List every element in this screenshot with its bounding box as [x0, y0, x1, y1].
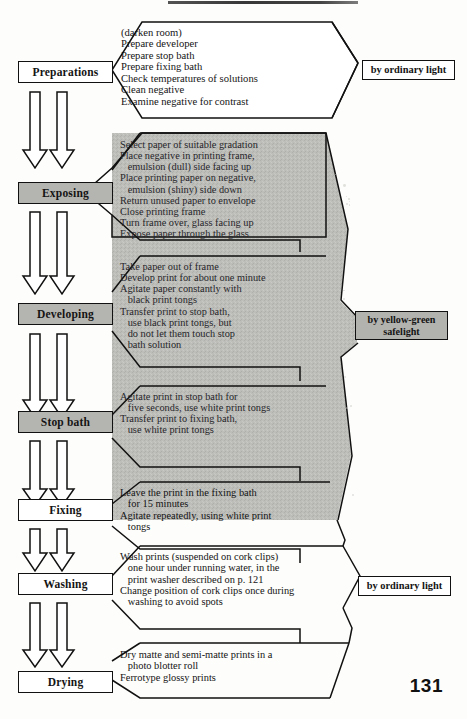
- light-label-top-text: by ordinary light: [371, 64, 447, 76]
- light-label-middle[interactable]: by yellow-green safelight: [355, 311, 448, 340]
- light-region-boundary: [326, 22, 360, 698]
- stage-label-preparations: Preparations: [32, 66, 98, 78]
- scan-speck: [342, 442, 344, 444]
- arrow-preparations-to-exposing: [23, 92, 74, 168]
- stage-box-exposing[interactable]: Exposing: [18, 182, 113, 204]
- arrow-fixing-to-washing: [23, 529, 74, 571]
- steps-fixing: Leave the print in the fixing bath for 1…: [120, 487, 271, 532]
- steps-exposing: Select paper of suitable gradation Place…: [120, 139, 258, 239]
- scan-speck: [350, 405, 352, 407]
- steps-preparations: (darken room) Prepare developer Prepare …: [121, 27, 258, 107]
- scan-speck: [331, 250, 333, 252]
- stage-label-stop-bath: Stop bath: [41, 416, 90, 428]
- stage-label-developing: Developing: [37, 308, 94, 320]
- stage-label-washing: Washing: [43, 578, 87, 590]
- scan-speck: [340, 208, 342, 210]
- stage-box-fixing[interactable]: Fixing: [18, 499, 113, 521]
- light-label-top[interactable]: by ordinary light: [362, 60, 455, 80]
- arrow-developing-to-stopbath: [23, 334, 74, 418]
- arrow-washing-to-drying: [23, 603, 74, 667]
- stage-box-drying[interactable]: Drying: [18, 671, 113, 693]
- stage-box-developing[interactable]: Developing: [18, 303, 113, 325]
- scan-speck: [335, 174, 336, 175]
- light-label-bottom[interactable]: by ordinary light: [358, 576, 451, 596]
- light-label-middle-text: by yellow-green safelight: [368, 314, 436, 337]
- stage-label-fixing: Fixing: [49, 504, 82, 516]
- flowchart-outline-layer: [0, 0, 467, 719]
- scan-speck: [349, 204, 350, 205]
- stage-label-exposing: Exposing: [42, 187, 89, 199]
- stage-box-stop-bath[interactable]: Stop bath: [18, 411, 113, 433]
- scan-speck: [341, 458, 344, 461]
- steps-drying: Dry matte and semi-matte prints in a pho…: [120, 649, 272, 683]
- arrow-stopbath-to-fixing: [23, 441, 74, 506]
- stage-box-preparations[interactable]: Preparations: [18, 61, 113, 83]
- steps-washing: Wash prints (suspended on cork clips) on…: [120, 551, 294, 607]
- stage-box-washing[interactable]: Washing: [18, 573, 113, 595]
- arrow-exposing-to-developing: [23, 212, 74, 294]
- scan-speck: [343, 236, 345, 238]
- steps-developing: Take paper out of frame Develop print fo…: [120, 261, 266, 350]
- page-number: 131: [410, 675, 443, 697]
- scan-speck: [344, 376, 346, 378]
- light-region-boundary-middle: [337, 520, 345, 546]
- stage-label-drying: Drying: [48, 676, 84, 688]
- light-label-bottom-text: by ordinary light: [367, 580, 443, 592]
- scan-speck: [338, 195, 339, 196]
- flowchart-page: Preparations Exposing Developing Stop ba…: [0, 0, 467, 719]
- steps-stop-bath: Agitate print in stop bath for five seco…: [120, 391, 270, 436]
- light-region-boundary-lower: [343, 608, 352, 643]
- scan-speck: [348, 198, 349, 199]
- scan-speck: [352, 494, 354, 496]
